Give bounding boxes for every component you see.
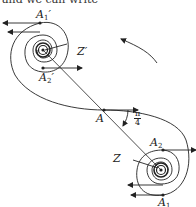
label-A: A [96, 113, 104, 124]
label-Z-prime: Z′ [77, 46, 87, 57]
rotation-arrow-icon [121, 39, 157, 63]
label-Z: Z [113, 153, 121, 164]
angle-label: π4 [134, 110, 141, 127]
label-A2: A2 [150, 137, 162, 150]
upper-spiral-curve [11, 22, 104, 110]
label-A1: A1 [158, 197, 170, 207]
point-A2p [41, 66, 44, 69]
label-A1-prime: A1′ [36, 9, 51, 22]
cornu-spiral-diagram [0, 0, 196, 207]
label-A2-prime: A2′ [39, 72, 54, 85]
point-Z [159, 168, 162, 171]
point-Zp [41, 48, 44, 51]
angle-arc [123, 110, 128, 126]
